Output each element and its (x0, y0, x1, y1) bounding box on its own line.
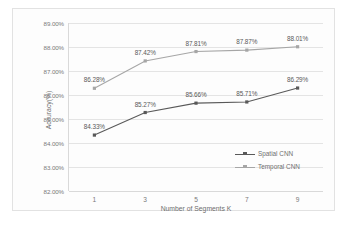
legend-label: Spatial CNN (258, 150, 293, 157)
chart-container: Accuracy(%) 89.00%88.00%87.00%86.00%85.0… (0, 0, 347, 227)
series-marker (144, 111, 147, 114)
data-point-label: 87.42% (135, 49, 156, 56)
x-axis-tick-label: 9 (296, 196, 300, 203)
y-axis-tick-label: 86.00% (44, 92, 64, 99)
legend-swatch-icon (235, 163, 255, 170)
data-point-label: 86.28% (84, 76, 105, 83)
series-marker (296, 45, 299, 48)
data-point-label: 84.33% (84, 123, 105, 130)
y-axis-tick-label: 83.00% (44, 164, 64, 171)
data-point-label: 85.71% (236, 90, 257, 97)
data-point-label: 88.01% (287, 35, 308, 42)
x-axis-tick-label: 3 (143, 196, 147, 203)
legend-swatch-icon (235, 150, 255, 157)
series-marker (194, 102, 197, 105)
x-axis-tick-label: 1 (93, 196, 97, 203)
series-marker (144, 59, 147, 62)
chart-frame: Accuracy(%) 89.00%88.00%87.00%86.00%85.0… (12, 8, 335, 211)
x-axis-title: Number of Segments K (161, 205, 232, 212)
gridline (69, 191, 323, 192)
series-marker (93, 133, 96, 136)
y-axis-tick-label: 88.00% (44, 44, 64, 51)
y-axis-tick-label: 85.00% (44, 116, 64, 123)
series-marker (245, 100, 248, 103)
legend-label: Temporal CNN (258, 163, 300, 170)
data-point-label: 87.87% (236, 38, 257, 45)
x-axis-tick-label: 5 (194, 196, 198, 203)
legend-item[interactable]: Temporal CNN (235, 160, 330, 173)
series-marker (245, 49, 248, 52)
y-axis-tick-label: 89.00% (44, 20, 64, 27)
data-point-label: 87.81% (185, 40, 206, 47)
data-point-label: 85.27% (135, 101, 156, 108)
legend-item[interactable]: Spatial CNN (235, 147, 330, 160)
x-axis-tick-label: 7 (245, 196, 249, 203)
y-axis-tick-label: 82.00% (44, 188, 64, 195)
chart-legend: Spatial CNNTemporal CNN (235, 147, 330, 173)
series-marker (93, 87, 96, 90)
series-marker (194, 50, 197, 53)
data-point-label: 86.29% (287, 76, 308, 83)
data-point-label: 85.66% (185, 91, 206, 98)
series-marker (296, 86, 299, 89)
y-axis-tick-label: 84.00% (44, 140, 64, 147)
y-axis-tick-label: 87.00% (44, 68, 64, 75)
